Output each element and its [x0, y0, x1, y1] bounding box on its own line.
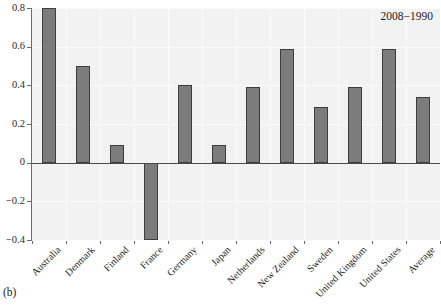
- bar: [212, 145, 227, 162]
- bar: [246, 87, 261, 162]
- y-axis-tick-mark: [27, 201, 31, 202]
- x-axis-tick-mark: [134, 241, 135, 244]
- x-axis-tick-mark: [236, 241, 237, 244]
- y-axis-tick-mark: [27, 240, 31, 241]
- gridline-vertical: [168, 8, 169, 240]
- x-axis-tick-mark: [32, 241, 33, 244]
- zero-baseline: [32, 163, 440, 164]
- bar: [76, 66, 91, 163]
- bar: [42, 8, 57, 163]
- y-axis-tick-mark: [27, 163, 31, 164]
- x-axis-tick-mark: [100, 241, 101, 244]
- y-axis-tick-mark: [27, 124, 31, 125]
- x-axis-tick-mark: [270, 241, 271, 244]
- gridline-vertical: [304, 8, 305, 240]
- gridline-vertical: [134, 8, 135, 240]
- x-axis-tick-mark: [304, 241, 305, 244]
- gridline-vertical: [202, 8, 203, 240]
- x-axis-tick-mark: [66, 241, 67, 244]
- gridline-vertical: [100, 8, 101, 240]
- y-axis-tick-mark: [27, 47, 31, 48]
- bar: [416, 97, 431, 163]
- y-axis-tick-label: 0.6: [0, 41, 25, 52]
- x-axis-tick-mark: [202, 241, 203, 244]
- x-axis-tick-mark: [338, 241, 339, 244]
- y-axis-tick-label: −0.2: [0, 196, 25, 207]
- gridline-vertical: [338, 8, 339, 240]
- bar-chart-figure: 0.80.60.40.20−0.2−0.4 AustraliaDenmarkFi…: [0, 0, 441, 307]
- gridline-vertical: [270, 8, 271, 240]
- gridline-vertical: [406, 8, 407, 240]
- y-axis-tick-label: −0.4: [0, 235, 25, 246]
- bar: [144, 163, 159, 240]
- x-axis-tick-mark: [168, 241, 169, 244]
- y-axis-tick-label: 0: [0, 157, 25, 168]
- bar: [280, 49, 295, 163]
- x-axis-tick-mark: [406, 241, 407, 244]
- y-axis-tick-label: 0.8: [0, 3, 25, 14]
- y-axis-tick-label: 0.4: [0, 80, 25, 91]
- bar: [348, 87, 363, 162]
- plot-area: [32, 8, 440, 240]
- gridline-vertical: [236, 8, 237, 240]
- bar: [314, 107, 329, 163]
- panel-caption: (b): [3, 286, 16, 298]
- bar: [110, 145, 125, 162]
- bar: [178, 85, 193, 162]
- y-axis-tick-labels: 0.80.60.40.20−0.2−0.4: [0, 0, 25, 307]
- bar: [382, 49, 397, 163]
- y-axis-tick-mark: [27, 85, 31, 86]
- gridline-vertical: [372, 8, 373, 240]
- y-axis-tick-label: 0.2: [0, 119, 25, 130]
- y-axis-tick-mark: [27, 8, 31, 9]
- gridline-vertical: [66, 8, 67, 240]
- x-axis-tick-mark: [372, 241, 373, 244]
- series-annotation: 2008−1990: [381, 10, 434, 22]
